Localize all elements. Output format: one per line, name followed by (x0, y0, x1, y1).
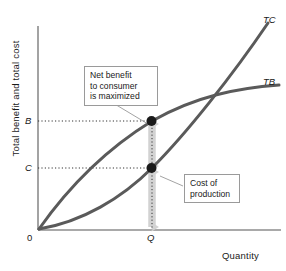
tc-curve-label: TC (263, 14, 276, 25)
y-tick-label-b: B (25, 115, 31, 126)
chart-canvas (0, 0, 286, 271)
origin-label: 0 (27, 232, 32, 243)
economics-total-benefit-cost-chart: Total benefit and total cost Quantity 0 … (0, 0, 286, 271)
x-axis-title: Quantity (222, 250, 259, 261)
cost-of-production-callout: Cost of production (184, 174, 240, 203)
tb-curve (39, 85, 279, 229)
y-axis-title: Total benefit and total cost (10, 10, 21, 188)
benefit-point-dot (147, 116, 157, 126)
y-tick-label-c: C (25, 162, 32, 173)
tb-curve-label: TB (263, 76, 275, 87)
cost-point-dot (147, 163, 157, 173)
net-benefit-callout: Net benefit to consumer is maximized (84, 66, 158, 106)
cost-of-production-leader-line (160, 176, 183, 186)
x-tick-label-q: Q (147, 232, 154, 243)
